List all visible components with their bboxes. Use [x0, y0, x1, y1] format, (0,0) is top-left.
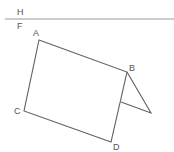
label-a: A [33, 28, 39, 38]
label-b: B [129, 63, 135, 73]
quadrilateral-abdc [24, 40, 127, 142]
label-c: C [14, 106, 21, 116]
label-f: F [17, 21, 23, 31]
label-d: D [113, 142, 120, 152]
label-h: H [17, 7, 24, 17]
diagram-canvas: H F A B C D [0, 0, 174, 152]
